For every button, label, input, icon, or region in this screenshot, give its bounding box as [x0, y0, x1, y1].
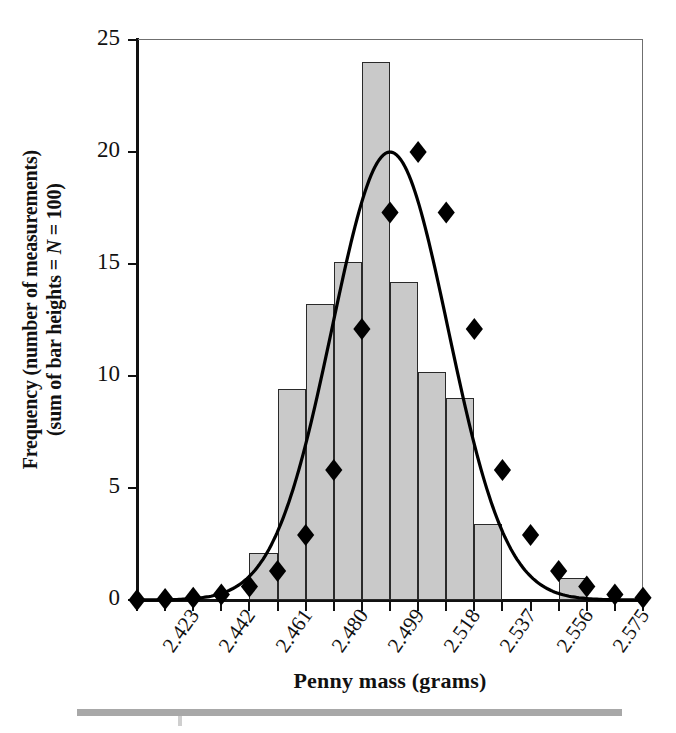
x-axis-tick-label: 2.480 — [328, 605, 372, 656]
footer-divider — [77, 709, 622, 716]
y-axis-tick-label: 20 — [97, 138, 120, 161]
curve-diamond-marker — [522, 524, 539, 546]
curve-diamond-marker — [606, 583, 623, 605]
y-axis-title: Frequency (number of measurements) (sum … — [0, 0, 86, 620]
footer-tick-mark — [178, 716, 182, 726]
curve-diamond-marker — [157, 588, 174, 610]
y-axis-tick-label: 0 — [109, 586, 121, 609]
curve-diamond-marker — [438, 201, 455, 223]
x-axis-tick-label: 2.537 — [496, 605, 540, 656]
y-axis-title-line2-suffix: = 100) — [43, 184, 65, 241]
x-axis-title: Penny mass (grams) — [137, 668, 643, 694]
y-axis-tick-label: 5 — [109, 474, 121, 497]
x-axis-tick-label: 2.518 — [440, 605, 484, 656]
curve-diamond-marker — [213, 583, 230, 605]
x-axis-tick-label: 2.423 — [159, 605, 203, 656]
curve-diamond-marker — [325, 459, 342, 481]
x-axis-tick-label: 2.556 — [553, 605, 597, 656]
y-axis-title-line2: (sum of bar heights = N = 100) — [43, 150, 67, 469]
curve-diamond-marker — [381, 201, 398, 223]
y-axis-title-line2-prefix: (sum of bar heights = — [43, 255, 65, 437]
x-axis-tick-label: 2.575 — [609, 605, 653, 656]
x-axis-tick-label: 2.442 — [215, 605, 259, 656]
curve-diamond-marker — [578, 576, 595, 598]
y-axis-title-line1: Frequency (number of measurements) — [19, 150, 41, 469]
x-axis-tick-label: 2.499 — [384, 605, 428, 656]
y-axis-title-n-symbol: N — [43, 240, 65, 254]
y-axis-tick-label: 25 — [97, 26, 120, 49]
curve-diamond-marker — [353, 318, 370, 340]
curve-diamond-marker — [241, 576, 258, 598]
x-axis-tick-label: 2.461 — [272, 605, 316, 656]
plot-area: 0510152025 2.4232.4422.4612.4802.4992.51… — [137, 40, 643, 600]
curve-diamond-marker — [410, 141, 427, 163]
curve-diamond-marker — [297, 524, 314, 546]
y-axis-tick-label: 15 — [97, 250, 120, 273]
gaussian-curve — [137, 40, 643, 602]
curve-diamond-marker — [466, 318, 483, 340]
curve-diamond-marker — [269, 560, 286, 582]
curve-diamond-marker — [494, 459, 511, 481]
curve-diamond-marker — [128, 589, 145, 611]
penny-mass-histogram-figure: Frequency (number of measurements) (sum … — [0, 0, 676, 733]
curve-diamond-marker — [550, 560, 567, 582]
y-axis-tick-label: 10 — [97, 362, 120, 385]
